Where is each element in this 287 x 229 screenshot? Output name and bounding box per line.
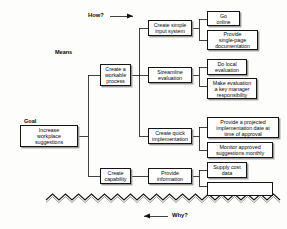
node-create-workable-process-label: Create aworkableprocess [102,66,129,84]
node-create-workable-process[interactable]: Create aworkableprocess [100,64,131,86]
why-arrowhead-icon [144,213,150,218]
means-caption: Means [55,49,72,55]
node-create-simple-input-system[interactable]: Create simpleinput system [148,20,192,36]
node-create-quick-implementation[interactable]: Create quickimplementation [148,128,192,144]
node-supply-cost-data[interactable]: Supply costdata [207,162,247,178]
tree-diagram-canvas: Goal Means How? Why? Increaseworkplacesu… [0,0,287,229]
node-create-capability[interactable]: Createcapability [100,168,131,184]
node-create-quick-implementation-label: Create quickimplementation [150,130,190,142]
node-create-simple-input-system-label: Create simpleinput system [150,22,190,34]
goal-caption: Goal [24,118,36,124]
node-goal[interactable]: Increaseworkplacesuggestions [20,125,78,147]
node-provide-single-page-documentation[interactable]: Providesingle-pagedocumentation [207,30,258,50]
node-provide-projected-implementation-date-label: Provide a projectedimplementation date a… [209,119,277,137]
why-label: Why? [172,212,188,218]
how-label: How? [88,12,104,18]
node-provide-information[interactable]: Provideinformation [148,168,192,184]
node-streamline-evaluation[interactable]: Streamlineevaluation [148,67,192,83]
node-provide-projected-implementation-date[interactable]: Provide a projectedimplementation date a… [207,117,279,138]
node-do-local-evaluation-label: Do localevaluation [209,61,245,73]
node-unlabeled-truncated[interactable] [207,182,273,196]
node-monitor-approved-suggestions-monthly[interactable]: Monitor approvedsuggestions monthly [207,142,273,158]
how-arrowhead-icon [127,13,133,18]
node-provide-information-label: Provideinformation [150,170,190,182]
node-go-online-label: Goonline [209,13,238,25]
node-make-evaluation-key-manager-responsibility[interactable]: Make evaluationa key managerresponsibili… [207,78,257,99]
node-provide-single-page-documentation-label: Providesingle-pagedocumentation [209,31,256,49]
node-goal-label: Increaseworkplacesuggestions [22,127,76,145]
node-supply-cost-data-label: Supply costdata [209,164,245,176]
node-monitor-approved-suggestions-monthly-label: Monitor approvedsuggestions monthly [209,144,271,156]
node-make-evaluation-key-manager-responsibility-label: Make evaluationa key managerresponsibili… [209,80,255,98]
node-go-online[interactable]: Goonline [207,11,240,26]
node-do-local-evaluation[interactable]: Do localevaluation [207,59,247,75]
node-create-capability-label: Createcapability [102,170,129,182]
node-streamline-evaluation-label: Streamlineevaluation [150,69,190,81]
